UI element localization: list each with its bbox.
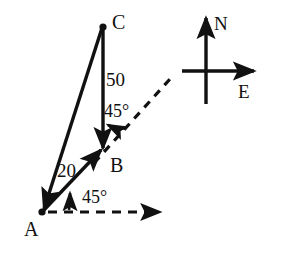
- angle-label-at-a: 45°: [82, 188, 107, 206]
- compass-label-north: N: [214, 14, 228, 33]
- angle-label-at-b: 45°: [104, 102, 129, 120]
- compass-label-east: E: [238, 82, 250, 101]
- diagram-canvas: [0, 0, 281, 269]
- vertex-label-a: A: [24, 219, 38, 239]
- magnitude-label-ac: 20: [57, 161, 76, 180]
- northeast-reference-ray-at-b: [94, 79, 170, 163]
- vertex-label-c: C: [112, 12, 125, 32]
- vector-diagram: A B C 50 20 45° 45° N E: [0, 0, 281, 269]
- vertex-label-b: B: [110, 155, 123, 175]
- vertex-dot-c: [99, 23, 106, 30]
- angle-arrow-at-a: [69, 193, 70, 210]
- magnitude-label-bc: 50: [106, 70, 125, 89]
- vertex-dot-a: [38, 208, 45, 215]
- angle-arrow-at-b: [108, 125, 126, 129]
